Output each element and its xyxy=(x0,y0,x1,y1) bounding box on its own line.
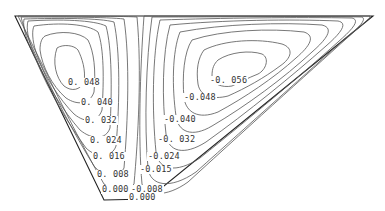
contour-label-right-024: -0.024 xyxy=(147,152,181,161)
contour-label-left-024: 0. 024 xyxy=(89,136,123,145)
contour-label-left-040: 0. 040 xyxy=(80,98,114,107)
contour-label-right-040: -0.040 xyxy=(163,115,197,124)
contour-left-040 xyxy=(40,33,95,103)
contour-label-left-048: 0. 048 xyxy=(67,78,101,87)
contour-label-left-000: 0.000 xyxy=(101,185,130,194)
contour-right-024 xyxy=(163,20,343,150)
contour-label-right-056: -0. 056 xyxy=(209,76,248,85)
contour-label-left-032: 0. 032 xyxy=(84,116,118,125)
contour-label-left-016: 0. 016 xyxy=(92,152,126,161)
contour-right-048 xyxy=(197,41,290,98)
contour-right-040 xyxy=(183,30,310,115)
contour-label-right-048: -0.048 xyxy=(183,93,217,102)
contour-label-right-032: -0. 032 xyxy=(157,135,196,144)
contour-label-right-015: -0.015 xyxy=(139,165,173,174)
contour-label-right-000: 0.000 xyxy=(128,193,157,202)
contour-label-left-008: 0. 008 xyxy=(96,170,130,179)
contour-plot xyxy=(0,0,385,211)
